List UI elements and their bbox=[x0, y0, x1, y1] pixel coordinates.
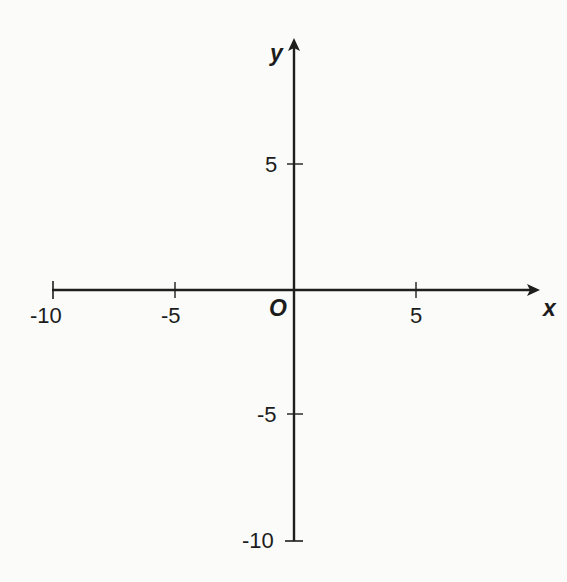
y-tick-label-pos5: 5 bbox=[265, 154, 277, 176]
x-tick-label-neg5: -5 bbox=[161, 305, 181, 327]
y-tick-label-neg5: -5 bbox=[257, 404, 277, 426]
y-axis-label: y bbox=[270, 42, 283, 65]
coordinate-plane: y x O -10 -5 5 5 -5 -10 bbox=[0, 0, 567, 582]
x-tick-label-pos5: 5 bbox=[410, 305, 422, 327]
x-tick-label-neg10: -10 bbox=[30, 305, 62, 327]
y-tick-label-neg10: -10 bbox=[242, 530, 274, 552]
origin-label: O bbox=[269, 297, 287, 320]
axes-graphic bbox=[0, 0, 567, 582]
x-axis-label: x bbox=[543, 297, 556, 320]
